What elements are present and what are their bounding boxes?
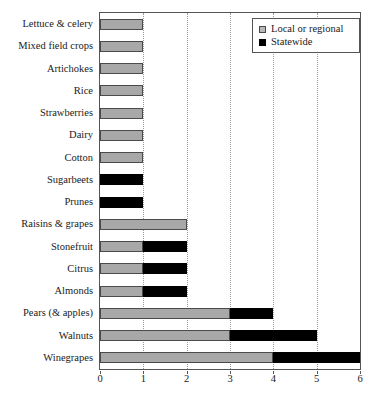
bar-segment-statewide <box>143 286 186 297</box>
legend-entry-statewide: Statewide <box>259 36 354 48</box>
bar-segment-local <box>100 152 143 163</box>
y-axis-label: Citrus <box>67 263 93 274</box>
bar-segment-local <box>100 286 143 297</box>
y-axis-label: Almonds <box>54 285 93 296</box>
x-tick-label: 5 <box>305 373 329 384</box>
bar-segment-local <box>100 108 143 119</box>
bar-segment-local <box>100 308 230 319</box>
bar-segment-local <box>100 241 143 252</box>
bar-segment-local <box>100 63 143 74</box>
bar-segment-local <box>100 41 143 52</box>
y-axis-label: Mixed field crops <box>18 40 93 51</box>
plot-area <box>99 12 361 370</box>
x-tick-label: 0 <box>88 373 112 384</box>
y-axis-label: Raisins & grapes <box>21 218 93 229</box>
bar-segment-local <box>100 263 143 274</box>
y-axis-label: Prunes <box>64 196 93 207</box>
chart-legend: Local or regional Statewide <box>252 18 360 53</box>
y-axis-label: Strawberries <box>40 107 93 118</box>
y-axis-category-labels: Lettuce & celeryMixed field cropsArticho… <box>0 0 96 403</box>
legend-swatch-local-icon <box>259 26 266 33</box>
y-axis-label: Cotton <box>64 152 93 163</box>
bar-segment-statewide <box>100 197 143 208</box>
x-tick-label: 1 <box>131 373 155 384</box>
bar-segment-local <box>100 219 187 230</box>
legend-swatch-statewide-icon <box>259 39 266 46</box>
y-axis-label: Dairy <box>69 129 93 140</box>
bar-segment-local <box>100 85 143 96</box>
y-axis-label: Lettuce & celery <box>22 18 93 29</box>
y-axis-label: Artichokes <box>47 63 93 74</box>
bar-segment-statewide <box>143 263 186 274</box>
legend-label-statewide: Statewide <box>271 36 312 48</box>
legend-label-local: Local or regional <box>271 23 343 35</box>
bar-segment-local <box>100 330 230 341</box>
x-axis-ticks: 0123456 <box>99 371 361 391</box>
gridline-5 <box>317 13 318 369</box>
bar-segment-local <box>100 19 143 30</box>
y-axis-label: Winegrapes <box>43 352 93 363</box>
x-tick-label: 4 <box>261 373 285 384</box>
x-tick-label: 6 <box>348 373 372 384</box>
bar-segment-statewide <box>143 241 186 252</box>
bar-segment-local <box>100 352 273 363</box>
bar-segment-statewide <box>230 308 273 319</box>
y-axis-label: Pears (& apples) <box>23 307 93 318</box>
legend-entry-local: Local or regional <box>259 23 354 35</box>
y-axis-label: Walnuts <box>59 330 93 341</box>
x-tick-label: 3 <box>218 373 242 384</box>
y-axis-label: Sugarbeets <box>47 174 93 185</box>
horizontal-stacked-bar-chart: Lettuce & celeryMixed field cropsArticho… <box>0 0 375 403</box>
gridline-4 <box>273 13 274 369</box>
bar-segment-statewide <box>100 174 143 185</box>
bar-segment-local <box>100 130 143 141</box>
y-axis-label: Rice <box>74 85 93 96</box>
y-axis-label: Stonefruit <box>51 241 93 252</box>
x-tick-label: 2 <box>175 373 199 384</box>
bar-segment-statewide <box>273 352 360 363</box>
bar-segment-statewide <box>230 330 317 341</box>
